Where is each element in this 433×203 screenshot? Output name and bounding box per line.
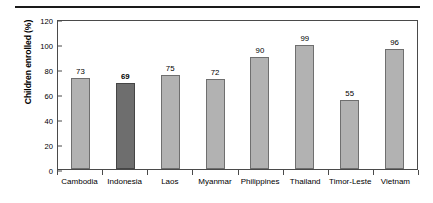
x-axis-label: Laos: [147, 177, 192, 186]
bar-value-label: 99: [300, 34, 309, 43]
x-tick-mark: [102, 170, 103, 175]
bar[interactable]: 69: [116, 83, 135, 169]
x-tick-mark: [418, 170, 419, 175]
x-tick-mark: [238, 170, 239, 175]
y-tick-label: 60: [45, 92, 58, 101]
bar[interactable]: 72: [206, 79, 225, 169]
x-axis-label: Cambodia: [57, 177, 102, 186]
x-axis-label: Myanmar: [192, 177, 237, 186]
bar-slot: 75: [148, 21, 193, 169]
bar[interactable]: 73: [71, 78, 90, 169]
y-tick-label: 40: [45, 117, 58, 126]
bar[interactable]: 99: [295, 45, 314, 169]
bar-slot: 73: [58, 21, 103, 169]
y-tick-label: 120: [40, 17, 58, 26]
bar[interactable]: 55: [340, 100, 359, 169]
bar-slot: 99: [282, 21, 327, 169]
x-axis-labels: CambodiaIndonesiaLaosMyanmarPhilippinesT…: [57, 177, 418, 186]
x-tick-mark: [57, 170, 58, 175]
bar-series: 7369757290995596: [58, 21, 417, 169]
y-tick-label: 100: [40, 42, 58, 51]
bar-slot: 55: [327, 21, 372, 169]
x-tick-mark: [147, 170, 148, 175]
x-axis-ticks: [57, 170, 418, 175]
bar[interactable]: 75: [161, 75, 180, 169]
bar-value-label: 55: [345, 89, 354, 98]
bar-slot: 96: [372, 21, 417, 169]
bar-value-label: 96: [390, 38, 399, 47]
x-axis-label: Indonesia: [102, 177, 147, 186]
top-divider-rule: [15, 6, 420, 8]
bar[interactable]: 90: [250, 57, 269, 170]
x-tick-mark: [373, 170, 374, 175]
bar-slot: 72: [193, 21, 238, 169]
bar-slot: 90: [238, 21, 283, 169]
bar-value-label: 90: [256, 46, 265, 55]
x-tick-mark: [192, 170, 193, 175]
bar[interactable]: 96: [385, 49, 404, 169]
x-axis-label: Vietnam: [373, 177, 418, 186]
bar-value-label: 73: [76, 67, 85, 76]
x-axis-label: Thailand: [283, 177, 328, 186]
plot-area: 020406080100120 7369757290995596: [57, 20, 418, 170]
x-axis-label: Philippines: [238, 177, 283, 186]
figure: Children enrolled (%) 020406080100120 73…: [0, 0, 433, 203]
bar-value-label: 75: [166, 64, 175, 73]
bar-value-label: 69: [121, 72, 130, 81]
x-axis-label: Timor-Leste: [328, 177, 373, 186]
x-tick-mark: [283, 170, 284, 175]
x-tick-mark: [328, 170, 329, 175]
bar-slot: 69: [103, 21, 148, 169]
y-tick-label: 80: [45, 67, 58, 76]
bar-value-label: 72: [211, 68, 220, 77]
y-tick-label: 20: [45, 142, 58, 151]
y-axis-title: Children enrolled (%): [23, 0, 33, 137]
